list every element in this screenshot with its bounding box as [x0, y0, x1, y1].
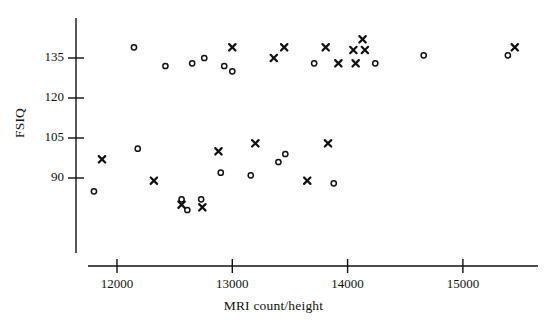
y-axis-label: FSIQ — [12, 118, 28, 138]
data-point-circle — [276, 159, 281, 164]
series-circle-markers — [91, 45, 510, 213]
x-tick-label: 15000 — [423, 276, 503, 292]
data-point-cross — [325, 140, 331, 146]
data-point-cross — [151, 177, 157, 183]
x-axis-label: MRI count/height — [0, 298, 547, 314]
data-point-cross — [352, 60, 358, 66]
data-point-circle — [505, 53, 510, 58]
data-point-circle — [283, 151, 288, 156]
data-point-cross — [99, 156, 105, 162]
data-point-cross — [512, 44, 518, 50]
x-tick-label: 13000 — [192, 276, 272, 292]
data-point-circle — [222, 63, 227, 68]
data-point-cross — [322, 44, 328, 50]
data-point-circle — [135, 146, 140, 151]
data-point-cross — [281, 44, 287, 50]
data-point-circle — [91, 189, 96, 194]
x-tick-label: 14000 — [308, 276, 388, 292]
data-point-cross — [215, 148, 221, 154]
data-point-cross — [199, 204, 205, 210]
data-point-circle — [230, 69, 235, 74]
data-point-cross — [271, 55, 277, 61]
data-point-circle — [248, 173, 253, 178]
data-point-cross — [350, 47, 356, 53]
data-point-circle — [218, 170, 223, 175]
data-point-circle — [373, 61, 378, 66]
y-tick-label: 120 — [20, 89, 64, 105]
y-axis-label-text: FSIQ — [12, 108, 28, 138]
data-point-cross — [335, 60, 341, 66]
y-tick-label: 90 — [20, 169, 64, 185]
data-point-circle — [421, 53, 426, 58]
series-cross-markers — [99, 36, 518, 210]
scatter-plot-figure: 90105120135 12000130001400015000 FSIQ MR… — [0, 0, 547, 330]
data-point-circle — [163, 63, 168, 68]
data-point-circle — [202, 55, 207, 60]
data-point-circle — [331, 181, 336, 186]
data-point-cross — [304, 177, 310, 183]
axis-lines — [76, 18, 538, 266]
data-point-circle — [179, 197, 184, 202]
data-point-cross — [229, 44, 235, 50]
data-point-cross — [252, 140, 258, 146]
data-point-cross — [359, 36, 365, 42]
x-axis-label-text: MRI count/height — [224, 298, 324, 314]
data-point-circle — [190, 61, 195, 66]
data-point-circle — [312, 61, 317, 66]
data-point-circle — [131, 45, 136, 50]
x-tick-label: 12000 — [77, 276, 157, 292]
data-point-circle — [199, 197, 204, 202]
data-point-cross — [362, 47, 368, 53]
y-tick-label: 135 — [20, 49, 64, 65]
